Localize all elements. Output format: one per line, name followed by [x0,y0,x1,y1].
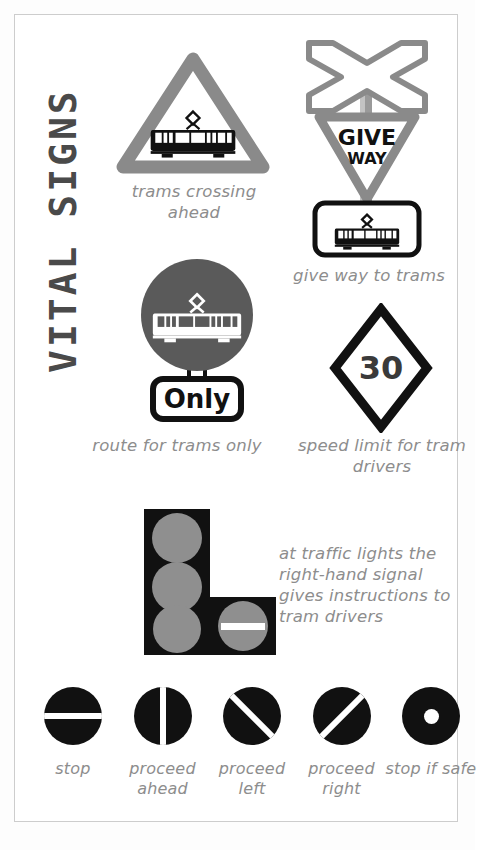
signal-dot [424,709,439,724]
lamp-middle [152,562,202,612]
tram-traffic-light-icon [142,507,282,657]
lamp-tram-bar [221,623,265,630]
signal-stop: stop [31,687,115,779]
traffic-light-note-line-4: tram drivers [279,606,475,627]
signal-label-stop-if-safe: stop if safe [385,759,477,779]
circle-tram-only-icon: Only [127,253,267,425]
give-way-text-line1: GIVE [338,125,396,150]
signal-bar [160,687,166,745]
only-plate-label: Only [164,384,231,414]
give-way-text-line2: WAY [347,149,387,168]
caption-speed-limit: speed limit for tram drivers [297,435,467,477]
signal-aspects-row: stop proceed ahead proceed left proceed … [31,687,473,822]
page-title: VITAL SIGNS [41,88,85,373]
warning-triangle-tram-icon [113,49,273,177]
lamp-top [152,513,202,563]
signal-proceed-right: proceed right [300,687,384,800]
signal-bar [227,691,278,742]
traffic-light-note-line-3: gives instructions to [279,585,475,606]
poster-frame: VITAL SIGNS [14,14,458,822]
sign-route-for-trams-only: Only [127,253,267,425]
signal-diagonal-left-icon [223,687,281,745]
caption-trams-crossing: trams crossing ahead [103,181,285,223]
sign-speed-limit: 30 [327,303,435,433]
signal-vertical-bar-icon [134,687,192,745]
traffic-light-note-line-2: right-hand signal [279,564,475,585]
sign-trams-crossing [113,49,273,177]
signal-bar [316,691,367,742]
traffic-light-note-line-1: at traffic lights the [279,543,475,564]
signal-horizontal-bar-icon [44,687,102,745]
signal-label-proceed-left: proceed left [206,759,298,800]
sign-give-way-to-trams: GIVE WAY [297,37,437,259]
signal-bar [44,713,102,719]
signal-diagonal-right-icon [313,687,371,745]
speed-limit-value: 30 [359,349,404,387]
signal-label-proceed-right: proceed right [296,759,388,800]
caption-give-way-to-trams: give way to trams [279,265,459,286]
signal-label-stop: stop [27,759,119,779]
poster-title-container: VITAL SIGNS [33,55,93,375]
signal-stop-if-safe: stop if safe [389,687,473,779]
signal-proceed-left: proceed left [210,687,294,800]
signal-proceed-ahead: proceed ahead [121,687,205,800]
signal-label-proceed-ahead: proceed ahead [117,759,209,800]
crossbuck-give-way-tram-icon: GIVE WAY [297,37,437,259]
caption-route-for-trams-only: route for trams only [77,435,277,456]
caption-traffic-light: at traffic lights the right-hand signal … [279,543,475,627]
sign-traffic-light [142,507,282,657]
diamond-speed-limit-icon: 30 [327,303,435,433]
lamp-bottom [153,605,201,653]
signal-dot-icon [402,687,460,745]
